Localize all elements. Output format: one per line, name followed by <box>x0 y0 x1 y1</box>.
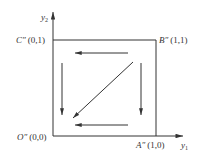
point-b-label: B″(1,1) <box>159 35 188 45</box>
arrow-diagonal <box>73 62 133 118</box>
unit-square-diagram: y2 y1 C″(0,1) B″(1,1) O″(0,0) A″(1,0) <box>0 0 202 158</box>
point-o-label: O″(0,0) <box>17 132 47 142</box>
x-axis-label: y1 <box>180 140 188 151</box>
y-axis-label: y2 <box>40 12 48 23</box>
point-c-label: C″(0,1) <box>16 35 45 45</box>
point-a-label: A″(1,0) <box>135 140 165 150</box>
